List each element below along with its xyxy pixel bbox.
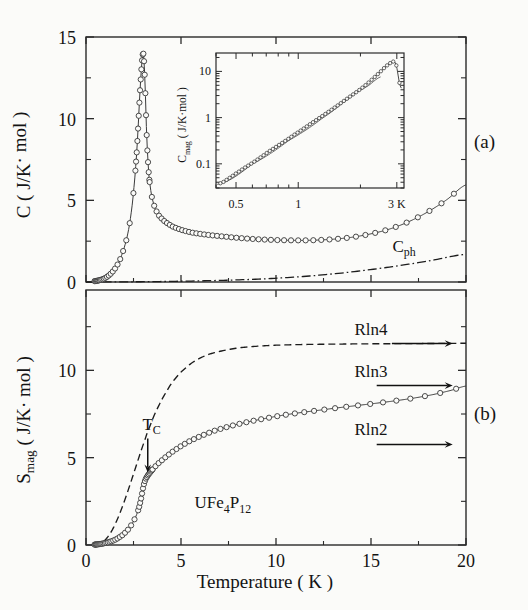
c-data-point <box>245 236 250 241</box>
c-data-point <box>124 238 129 243</box>
inset-data-point <box>373 75 376 78</box>
smag-data-point <box>132 517 137 522</box>
c-data-point <box>439 201 444 206</box>
inset-data-point <box>361 86 364 89</box>
rln3-text: Rln3 <box>354 362 387 381</box>
inset-data-point <box>237 170 240 173</box>
inset-data-point <box>287 137 290 140</box>
inset-data-point <box>317 116 320 119</box>
c-data-point <box>143 113 148 118</box>
inset-data-point <box>376 72 379 75</box>
panel-b-ytick-label: 0 <box>67 536 76 556</box>
c-data-point <box>139 67 144 72</box>
panel-a-ytick-label: 10 <box>58 110 76 130</box>
inset-data-point <box>277 143 280 146</box>
figure-container: 051015C ( J/K· mol )Cph(a)0.513 K0.1110C… <box>0 0 528 610</box>
inset-data-point <box>398 81 401 84</box>
inset-data-point <box>311 120 314 123</box>
inset-data-point <box>379 70 382 73</box>
panel-a-ylabel: C ( J/K· mol ) <box>9 112 35 219</box>
inset-data-point <box>367 81 370 84</box>
inset-data-point <box>274 145 277 148</box>
c-data-point <box>115 262 120 267</box>
panel-a-ytick-label: 15 <box>58 28 76 48</box>
tc-label: TC <box>142 415 160 437</box>
c-data-point <box>383 228 388 233</box>
c-data-point <box>281 238 286 243</box>
c-data-point <box>152 203 157 208</box>
c-data-point <box>133 168 138 173</box>
inset-data-point <box>290 135 293 138</box>
inset-data-point <box>228 176 231 179</box>
c-data-point <box>268 237 273 242</box>
c-data-point <box>373 230 378 235</box>
inset-data-point <box>271 147 274 150</box>
inset-data-point <box>222 180 225 183</box>
inset-data-point <box>342 99 345 102</box>
smag-data-point <box>139 491 144 496</box>
panel-a-ytick-label: 0 <box>67 273 76 293</box>
inset-data-point <box>299 129 302 132</box>
inset-data-point <box>339 101 342 104</box>
c-data-point <box>234 235 239 240</box>
inset-data-point <box>358 88 361 91</box>
c-data-point <box>427 208 432 213</box>
inset-data-point <box>284 139 287 142</box>
smag-data-point <box>302 410 307 415</box>
inset-data-point <box>296 131 299 134</box>
smag-data-point <box>266 415 271 420</box>
c-data-point <box>363 232 368 237</box>
inset-data-point <box>351 93 354 96</box>
cph-label: Cph <box>392 237 415 259</box>
smag-data-point <box>283 412 288 417</box>
panel-b-label: (b) <box>474 403 496 425</box>
inset-data-point <box>327 110 330 113</box>
c-data-point <box>121 248 126 253</box>
c-data-point <box>147 179 152 184</box>
inset-data-point <box>324 112 327 115</box>
inset-ytick-label: 10 <box>199 64 211 78</box>
c-data-point <box>145 160 150 165</box>
panel-b-xtick-label: 10 <box>267 551 285 571</box>
panel-b-xtick-label: 15 <box>362 551 380 571</box>
inset-data-point <box>256 158 259 161</box>
inset-data-point <box>336 104 339 107</box>
c-data-point <box>303 238 308 243</box>
inset-data-point <box>348 95 351 98</box>
c-data-point <box>137 100 142 105</box>
c-data-point <box>133 159 138 164</box>
c-data-point <box>393 224 398 229</box>
c-data-point <box>135 138 140 143</box>
c-data-point <box>134 150 139 155</box>
c-data-point <box>146 170 151 175</box>
c-data-point <box>404 220 409 225</box>
inset-data-point <box>250 162 253 165</box>
inset-data-point <box>392 60 395 63</box>
c-data-point <box>311 238 316 243</box>
c-data-point <box>275 237 280 242</box>
smag-data-point <box>244 420 249 425</box>
c-data-point <box>327 237 332 242</box>
inset-data-point <box>305 125 308 128</box>
smag-data-point <box>322 407 327 412</box>
inset-plot: 0.513 K0.1110Cmag ( J/K·mol ) <box>176 53 406 211</box>
panel-a-label: (a) <box>474 131 495 153</box>
c-data-point <box>118 256 123 261</box>
smag-data-point <box>368 401 373 406</box>
inset-data-point <box>308 123 311 126</box>
inset-data-point <box>333 106 336 109</box>
c-data-point <box>451 191 456 196</box>
c-data-point <box>344 235 349 240</box>
smag-data-point <box>275 414 280 419</box>
smag-data-point <box>218 426 223 431</box>
c-data-point <box>319 237 324 242</box>
c-data-point <box>296 238 301 243</box>
smag-data-point <box>454 386 459 391</box>
inset-data-point <box>280 141 283 144</box>
c-data-point <box>149 194 154 199</box>
inset-data-point <box>370 78 373 81</box>
panel-b-ylabel: Smag ( J/K· mol ) <box>13 356 37 483</box>
smag-data-point <box>422 394 427 399</box>
smag-data-point <box>408 396 413 401</box>
figure-svg: 051015C ( J/K· mol )Cph(a)0.513 K0.1110C… <box>0 0 528 610</box>
